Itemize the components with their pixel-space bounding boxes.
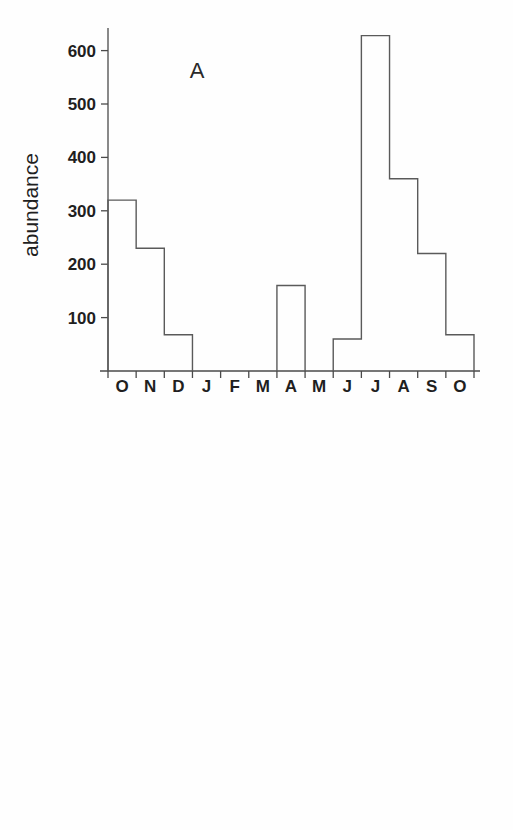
x-month-label: O: [115, 377, 128, 396]
x-month-label: M: [256, 377, 270, 396]
panel-letter: A: [190, 58, 205, 83]
chart-a-svg: 100200300400500600abundanceAONDJFMAMJJAS…: [0, 0, 513, 415]
chart-b-svg: 100200300400500600abundanceBAMJJASONDJFM: [0, 410, 513, 830]
y-tick-label: 400: [68, 148, 96, 167]
x-month-label: A: [397, 377, 409, 396]
y-axis-title: abundance: [19, 153, 42, 257]
y-tick-label: 300: [68, 202, 96, 221]
x-month-label: J: [343, 377, 352, 396]
x-month-label: D: [172, 377, 184, 396]
y-tick-label: 100: [68, 309, 96, 328]
panel-b: 100200300400500600abundanceBAMJJASONDJFM: [0, 410, 513, 830]
y-tick-label: 200: [68, 255, 96, 274]
x-month-label: J: [202, 377, 211, 396]
x-month-label: M: [312, 377, 326, 396]
histogram-step-outline: [108, 36, 474, 371]
y-tick-label: 500: [68, 95, 96, 114]
panel-a: 100200300400500600abundanceAONDJFMAMJJAS…: [0, 0, 513, 415]
x-month-label: A: [285, 377, 297, 396]
x-month-label: F: [229, 377, 239, 396]
x-month-label: O: [453, 377, 466, 396]
figure-container: 100200300400500600abundanceAONDJFMAMJJAS…: [0, 0, 513, 830]
x-month-label: N: [144, 377, 156, 396]
y-tick-label: 600: [68, 42, 96, 61]
x-month-label: S: [426, 377, 437, 396]
x-month-label: J: [371, 377, 380, 396]
